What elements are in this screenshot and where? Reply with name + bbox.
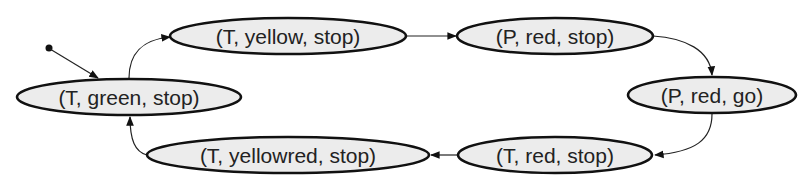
state-label: (P, red, stop) xyxy=(496,25,615,48)
state-node-t-yellow-stop: (T, yellow, stop) xyxy=(170,18,406,54)
state-label: (T, yellowred, stop) xyxy=(200,144,376,167)
state-node-p-red-stop: (P, red, stop) xyxy=(457,18,653,54)
state-node-t-red-stop: (T, red, stop) xyxy=(458,137,652,173)
edge-green-to-yellow xyxy=(129,37,170,78)
state-node-t-yellowred-stop: (T, yellowred, stop) xyxy=(147,137,429,173)
state-label: (T, red, stop) xyxy=(496,144,614,167)
edge-initial-to-green xyxy=(50,49,98,78)
state-label: (T, green, stop) xyxy=(58,86,199,109)
edge-redstop-to-redgo xyxy=(653,36,712,75)
state-label: (P, red, go) xyxy=(661,84,763,107)
state-node-t-green-stop: (T, green, stop) xyxy=(17,79,241,115)
edge-yellowred-to-green xyxy=(130,117,147,155)
edge-redgo-to-tredstop xyxy=(655,114,712,155)
state-label: (T, yellow, stop) xyxy=(216,25,361,48)
state-diagram: (T, green, stop) (T, yellow, stop) (P, r… xyxy=(0,0,812,189)
state-node-p-red-go: (P, red, go) xyxy=(628,77,796,113)
